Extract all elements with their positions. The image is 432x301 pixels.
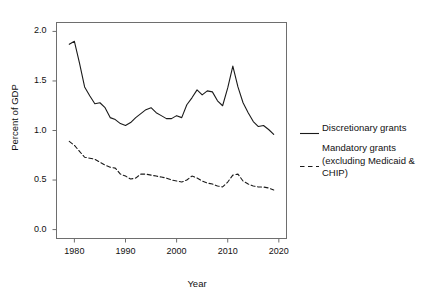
- x-axis-title: Year: [147, 278, 247, 289]
- data-series-layer: [69, 41, 273, 190]
- y-tick-label: 1.0: [21, 125, 47, 135]
- y-tick-label: 0.0: [21, 224, 47, 234]
- legend-entry: Mandatory grants (excluding Medicaid & C…: [300, 142, 432, 180]
- y-axis-title: Percent of GDP: [9, 68, 20, 168]
- legend-label: Discretionary grants: [322, 122, 406, 135]
- chart-legend: Discretionary grantsMandatory grants (ex…: [300, 122, 432, 186]
- x-tick-label: 2020: [259, 246, 299, 256]
- legend-entry: Discretionary grants: [300, 122, 432, 136]
- solid-line-icon: [300, 125, 322, 136]
- y-axis-ticks: [53, 31, 57, 229]
- series-line-1: [69, 141, 273, 190]
- x-tick-label: 1990: [106, 246, 146, 256]
- x-tick-label: 2010: [208, 246, 248, 256]
- dashed-line-icon: [300, 158, 322, 169]
- series-line-0: [69, 41, 273, 134]
- x-tick-label: 1980: [54, 246, 94, 256]
- x-axis-ticks: [74, 239, 278, 243]
- legend-label: Mandatory grants (excluding Medicaid & C…: [322, 142, 415, 180]
- y-tick-label: 1.5: [21, 75, 47, 85]
- y-tick-label: 2.0: [21, 25, 47, 35]
- plot-border: [57, 23, 287, 239]
- y-tick-label: 0.5: [21, 174, 47, 184]
- x-tick-label: 2000: [157, 246, 197, 256]
- chart-figure: Percent of GDP Year 0.00.51.01.52.0 1980…: [0, 0, 432, 301]
